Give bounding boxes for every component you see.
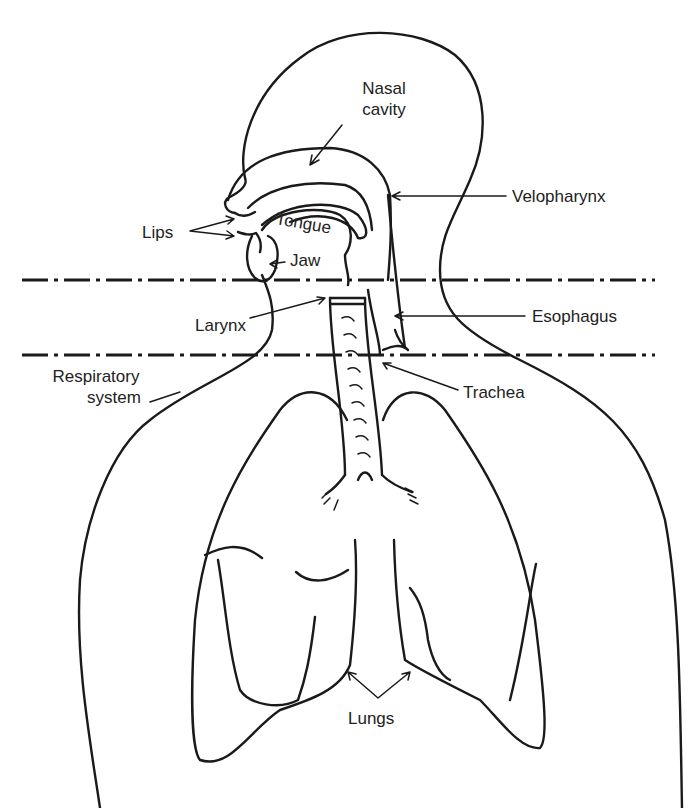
respiratory-leader — [150, 392, 180, 402]
nasal-cavity-label-line1: Nasal — [344, 78, 424, 99]
trachea-label: Trachea — [463, 382, 525, 403]
nasal-cavity-label: Nasal cavity — [344, 78, 424, 120]
tracheal-rings — [342, 317, 370, 457]
velopharynx-leader — [392, 192, 506, 200]
velopharynx-label: Velopharynx — [512, 186, 606, 207]
lungs-leader — [348, 672, 410, 698]
pharynx-back-wall — [388, 195, 405, 348]
right-lung-fissure — [410, 564, 536, 700]
left-lung-fissure — [205, 547, 348, 705]
right-lung-outline — [383, 392, 545, 748]
nasal-cavity-leader — [310, 125, 342, 165]
esophagus-leader — [395, 312, 525, 320]
lips-label: Lips — [142, 222, 173, 243]
larynx-bars — [330, 298, 365, 304]
jaw-label: Jaw — [290, 250, 320, 271]
lips-leader — [190, 216, 234, 239]
trachea-leader — [383, 363, 458, 390]
anatomy-diagram: Nasal cavity Velopharynx Lips Tongue Jaw… — [0, 0, 695, 808]
larynx-leader — [250, 297, 325, 318]
larynx-label: Larynx — [195, 315, 246, 336]
lungs-label: Lungs — [348, 708, 394, 729]
esophagus-label: Esophagus — [532, 306, 617, 327]
nasal-cavity-label-line2: cavity — [344, 99, 424, 120]
respiratory-label-line1: Respiratory — [38, 366, 154, 387]
bronchi-branches — [322, 488, 418, 510]
respiratory-system-label: Respiratory system — [38, 366, 154, 408]
respiratory-label-line2: system — [38, 387, 154, 408]
bronchi — [326, 473, 412, 495]
